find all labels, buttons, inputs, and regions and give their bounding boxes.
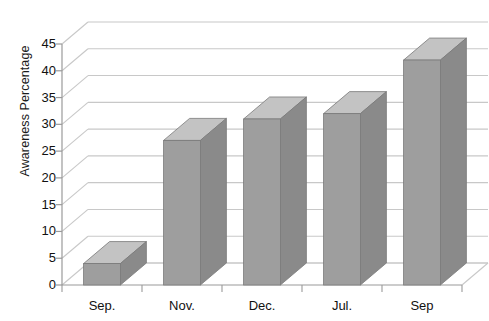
x-tick-label-0: Sep.: [89, 298, 116, 313]
bar-2: [244, 97, 307, 285]
bar-0: [84, 242, 147, 285]
x-tick-label-1: Nov.: [169, 298, 195, 313]
bar-3: [324, 92, 387, 285]
x-tick-label-3: Jul.: [332, 298, 352, 313]
x-axis-tick-labels: Sep.Nov.Dec.Jul.Sep: [0, 292, 489, 316]
x-tick-label-4: Sep: [410, 298, 433, 313]
x-tick-label-2: Dec.: [249, 298, 276, 313]
bar-1: [164, 118, 227, 285]
bar-4: [404, 38, 467, 285]
plot-area: [0, 0, 489, 321]
bar-chart: Awareness Percentage 051015202530354045 …: [0, 0, 489, 321]
